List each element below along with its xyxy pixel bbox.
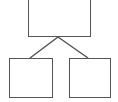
right-child-node-box bbox=[69, 58, 111, 98]
root-node-box bbox=[28, 0, 91, 37]
edge-root-to-right bbox=[58, 37, 88, 58]
tree-diagram bbox=[0, 0, 118, 102]
edge-root-to-left bbox=[30, 37, 58, 58]
left-child-node-box bbox=[9, 58, 53, 98]
